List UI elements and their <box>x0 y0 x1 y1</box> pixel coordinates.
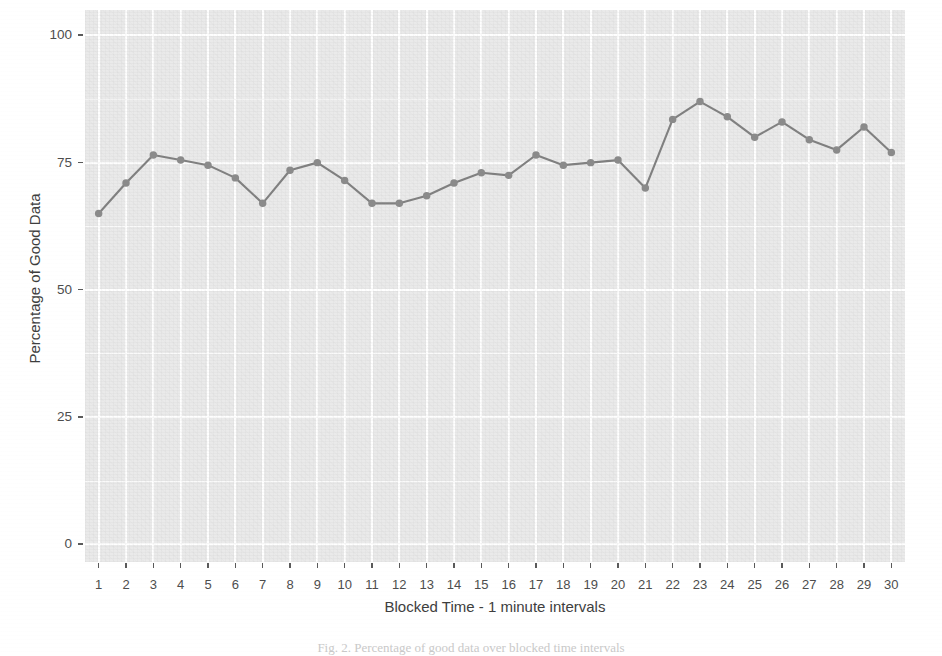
data-point <box>696 98 703 105</box>
x-tick-mark <box>727 563 729 568</box>
data-point <box>314 159 321 166</box>
y-tick-mark <box>78 543 83 545</box>
data-point <box>614 156 621 163</box>
x-tick-mark <box>699 563 701 568</box>
data-point <box>341 177 348 184</box>
y-tick-mark <box>78 162 83 164</box>
data-point <box>204 161 211 168</box>
data-point <box>532 151 539 158</box>
x-tick-mark <box>863 563 865 568</box>
x-tick-mark <box>781 563 783 568</box>
x-tick-mark <box>617 563 619 568</box>
x-tick-mark <box>563 563 565 568</box>
x-tick-mark <box>481 563 483 568</box>
x-tick-mark <box>125 563 127 568</box>
data-point <box>122 179 129 186</box>
data-point <box>505 172 512 179</box>
x-tick-mark <box>262 563 264 568</box>
x-tick-mark <box>399 563 401 568</box>
y-tick-mark <box>78 34 83 36</box>
x-tick-mark <box>891 563 893 568</box>
data-point <box>478 169 485 176</box>
y-tick-mark <box>78 289 83 291</box>
y-axis-title: Percentage of Good Data <box>26 69 43 489</box>
data-point <box>450 179 457 186</box>
x-tick-mark <box>453 563 455 568</box>
x-tick-label: 30 <box>871 578 911 591</box>
data-point <box>423 192 430 199</box>
data-point <box>560 161 567 168</box>
data-point <box>724 113 731 120</box>
x-tick-mark <box>98 563 100 568</box>
y-tick-label: 100 <box>32 28 72 42</box>
data-point <box>396 200 403 207</box>
data-point <box>888 149 895 156</box>
x-tick-mark <box>153 563 155 568</box>
data-series-line <box>85 10 905 562</box>
data-point <box>177 156 184 163</box>
data-point <box>259 200 266 207</box>
x-tick-mark <box>289 563 291 568</box>
x-tick-mark <box>809 563 811 568</box>
data-point <box>232 174 239 181</box>
x-tick-mark <box>672 563 674 568</box>
x-tick-mark <box>344 563 346 568</box>
x-tick-mark <box>590 563 592 568</box>
x-tick-mark <box>836 563 838 568</box>
data-point <box>806 136 813 143</box>
data-point <box>286 167 293 174</box>
x-tick-mark <box>645 563 647 568</box>
data-point <box>778 118 785 125</box>
x-tick-mark <box>508 563 510 568</box>
x-tick-mark <box>207 563 209 568</box>
data-point <box>860 123 867 130</box>
x-axis-title: Blocked Time - 1 minute intervals <box>85 598 905 615</box>
y-axis: 0255075100 <box>0 0 85 572</box>
data-point <box>833 146 840 153</box>
x-tick-mark <box>180 563 182 568</box>
x-tick-mark <box>535 563 537 568</box>
x-tick-mark <box>754 563 756 568</box>
data-point-group <box>95 98 895 217</box>
data-point <box>95 210 102 217</box>
x-tick-mark <box>371 563 373 568</box>
x-tick-mark <box>426 563 428 568</box>
y-tick-label: 0 <box>32 537 72 551</box>
data-point <box>642 184 649 191</box>
data-point <box>751 133 758 140</box>
figure-caption: Fig. 2. Percentage of good data over blo… <box>0 640 942 656</box>
data-point <box>669 116 676 123</box>
plot-panel <box>85 10 905 562</box>
y-tick-mark <box>78 416 83 418</box>
x-tick-mark <box>317 563 319 568</box>
x-tick-mark <box>235 563 237 568</box>
data-point <box>587 159 594 166</box>
data-point <box>150 151 157 158</box>
data-point <box>368 200 375 207</box>
